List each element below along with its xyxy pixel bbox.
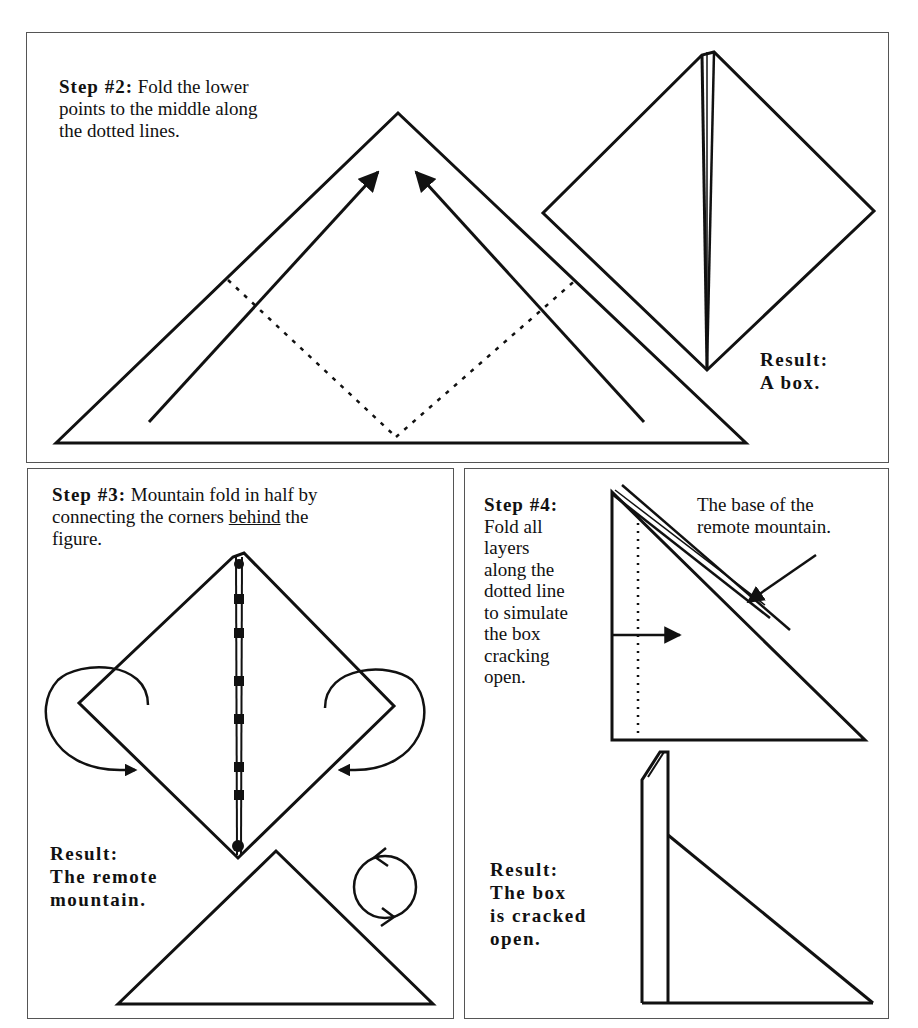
- step-2-result-label: Result:: [760, 348, 829, 371]
- step-3-result-line-1: The remote: [50, 865, 158, 888]
- step-3-panel: [27, 468, 454, 1019]
- step-2-line-1: Fold the lower: [138, 76, 249, 97]
- annotation-line-1: The base of the: [697, 494, 831, 516]
- step-3-instruction: Step #3: Mountain fold in half by connec…: [52, 484, 318, 550]
- step-3-line-1: Mountain fold in half by: [131, 484, 318, 505]
- annotation-line-2: remote mountain.: [697, 516, 831, 538]
- step-4-line-7: cracking: [484, 645, 568, 667]
- step-4-result-line-2: is cracked: [490, 904, 587, 927]
- step-4-result-line-1: The box: [490, 881, 587, 904]
- step-4-result-label: Result:: [490, 858, 587, 881]
- step-4-instruction: Step #4: Fold all layers along the dotte…: [484, 494, 568, 688]
- step-2-instruction: Step #2: Fold the lower points to the mi…: [59, 76, 257, 142]
- step-3-label: Step #3:: [52, 484, 126, 505]
- step-4-line-6: the box: [484, 623, 568, 645]
- step-2-line-2: points to the middle along: [59, 98, 257, 120]
- step-4-line-2: layers: [484, 537, 568, 559]
- step-3-line-3: figure.: [52, 528, 318, 550]
- step-3-result-label: Result:: [50, 842, 158, 865]
- step-3-emphasis: behind: [229, 506, 281, 527]
- step-4-annotation: The base of the remote mountain.: [697, 494, 831, 538]
- step-2-label: Step #2:: [59, 76, 133, 97]
- step-2-result: Result: A box.: [760, 348, 829, 394]
- step-3-line-2b: the: [280, 506, 308, 527]
- step-4-result-line-3: open.: [490, 927, 587, 950]
- step-3-result-line-2: mountain.: [50, 888, 158, 911]
- step-3-result: Result: The remote mountain.: [50, 842, 158, 911]
- step-4-label: Step #4:: [484, 494, 558, 515]
- step-2-result-text: A box.: [760, 371, 829, 394]
- step-4-line-5: to simulate: [484, 602, 568, 624]
- step-4-line-1: Fold all: [484, 516, 568, 538]
- step-3-line-2a: connecting the corners: [52, 506, 229, 527]
- step-4-line-3: along the: [484, 559, 568, 581]
- step-4-result: Result: The box is cracked open.: [490, 858, 587, 950]
- step-4-line-8: open.: [484, 666, 568, 688]
- step-4-line-4: dotted line: [484, 580, 568, 602]
- step-2-line-3: the dotted lines.: [59, 120, 257, 142]
